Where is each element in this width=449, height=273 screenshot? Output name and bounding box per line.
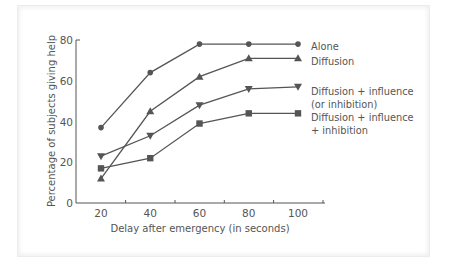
triangle-down-marker-icon bbox=[97, 153, 105, 160]
circle-marker-icon bbox=[197, 41, 203, 47]
y-tick-label: 40 bbox=[60, 116, 73, 128]
circle-marker-icon bbox=[147, 70, 153, 76]
legend-label: + inhibition bbox=[311, 125, 368, 136]
square-marker-icon bbox=[246, 110, 252, 116]
x-tick-label: 80 bbox=[242, 207, 255, 219]
legend-label: Diffusion + influence bbox=[311, 112, 414, 123]
triangle-up-marker-icon bbox=[146, 107, 154, 114]
x-axis-title: Delay after emergency (in seconds) bbox=[110, 223, 289, 234]
legend: AloneDiffusionDiffusion + influence(or i… bbox=[311, 41, 414, 136]
square-marker-icon bbox=[98, 165, 104, 171]
legend-label: Diffusion bbox=[311, 56, 354, 67]
series-line bbox=[101, 44, 298, 128]
circle-marker-icon bbox=[295, 41, 301, 47]
legend-label: Diffusion + influence bbox=[311, 86, 414, 97]
triangle-down-marker-icon bbox=[196, 102, 204, 109]
square-marker-icon bbox=[196, 120, 202, 126]
y-tick-label: 80 bbox=[60, 34, 73, 46]
y-axis-title: Percentage of subjects giving help bbox=[46, 35, 57, 207]
x-tick-label: 100 bbox=[288, 207, 308, 219]
y-tick-label: 20 bbox=[60, 156, 73, 168]
x-tick-label: 60 bbox=[193, 207, 206, 219]
legend-label: (or inhibition) bbox=[311, 99, 377, 110]
x-tick-label: 20 bbox=[94, 207, 107, 219]
line-chart: 02040608020406080100 AloneDiffusionDiffu… bbox=[0, 0, 449, 273]
legend-label: Alone bbox=[311, 41, 339, 52]
circle-marker-icon bbox=[98, 125, 104, 131]
series-alone bbox=[98, 41, 301, 130]
y-tick-label: 60 bbox=[60, 75, 73, 87]
series-group bbox=[97, 41, 302, 181]
circle-marker-icon bbox=[246, 41, 252, 47]
x-tick-label: 40 bbox=[144, 207, 157, 219]
square-marker-icon bbox=[147, 155, 153, 161]
square-marker-icon bbox=[295, 110, 301, 116]
y-tick-label: 0 bbox=[66, 197, 73, 209]
